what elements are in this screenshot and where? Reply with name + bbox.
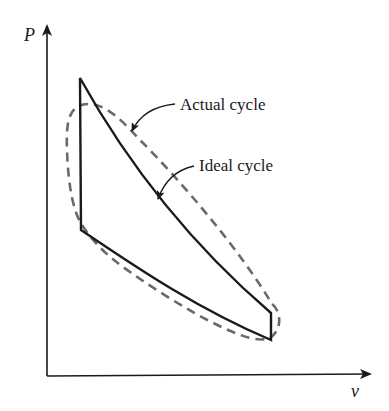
pv-diagram: P v Actual cycle Ideal cycle: [0, 0, 389, 411]
actual-cycle-annotation: Actual cycle: [132, 95, 265, 131]
actual-cycle-label: Actual cycle: [180, 95, 265, 114]
actual-cycle-curve: [67, 104, 279, 340]
ideal-cycle-label: Ideal cycle: [199, 156, 273, 175]
x-axis-label: v: [351, 381, 359, 401]
y-axis-label: P: [23, 25, 35, 45]
actual-cycle-leader-arrow: [132, 104, 175, 131]
x-axis: [47, 374, 370, 376]
ideal-cycle-leader-arrow: [158, 166, 194, 199]
